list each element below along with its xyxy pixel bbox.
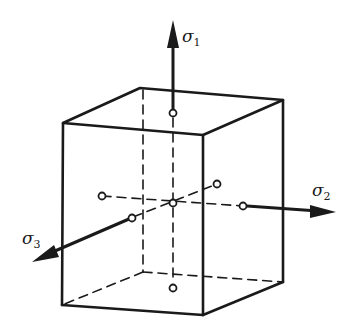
sigma2-arrow	[247, 205, 336, 218]
sigma3-label: σ3	[22, 228, 41, 251]
cube-drawing	[0, 0, 352, 336]
sigma3-arrow	[32, 219, 129, 262]
sigma1-label: σ1	[182, 26, 201, 49]
sigma2-label: σ2	[312, 180, 331, 203]
hidden-edges	[62, 90, 283, 305]
sigma1-arrow	[167, 20, 179, 108]
stress-cube-diagram: σ1 σ2 σ3	[0, 0, 352, 336]
